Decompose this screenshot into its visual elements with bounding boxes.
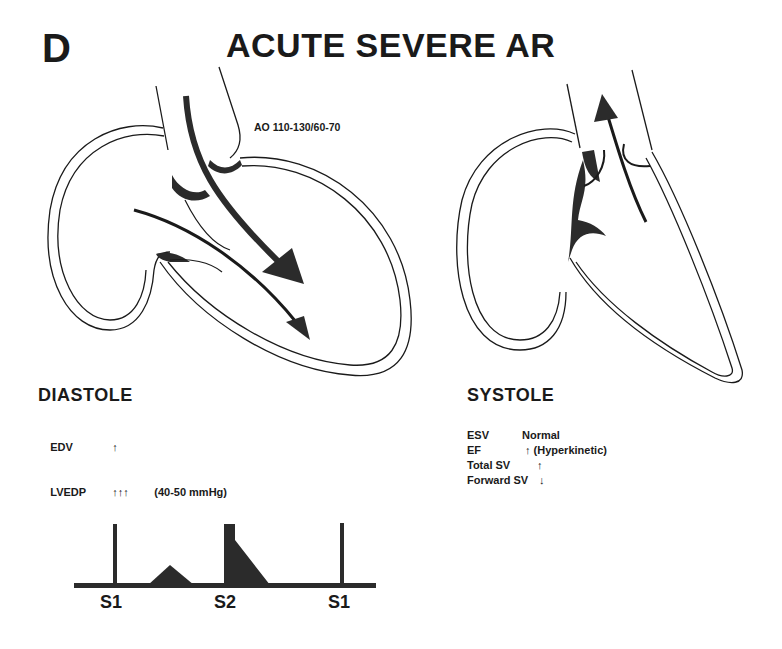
phonocardiogram [0, 0, 782, 649]
s1-label: S1 [328, 592, 350, 613]
systolic-murmur-shape [148, 565, 194, 585]
s1-sound-marker [340, 523, 344, 586]
s2-label: S2 [214, 592, 236, 613]
diastolic-murmur-shape [224, 524, 270, 585]
s1-label: S1 [100, 592, 122, 613]
s1-sound-marker [113, 524, 117, 586]
